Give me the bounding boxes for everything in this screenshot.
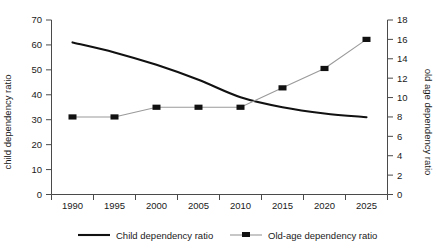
right-axis-ticks: 024681012141618 bbox=[388, 14, 408, 200]
right-tick-label: 0 bbox=[397, 189, 402, 200]
bottom-tick-label: 1990 bbox=[62, 200, 83, 211]
left-tick-label: 0 bbox=[37, 189, 42, 200]
legend-swatch-marker-old-age bbox=[242, 232, 250, 237]
right-tick-label: 18 bbox=[397, 14, 408, 25]
bottom-axis: 19901995200020052010201520202025 bbox=[52, 195, 388, 212]
bottom-tick-label: 2000 bbox=[146, 200, 167, 211]
old-age-data-marker bbox=[279, 85, 287, 90]
legend-item-old-age: Old-age dependency ratio bbox=[230, 230, 377, 241]
bottom-tick-label: 2020 bbox=[314, 200, 335, 211]
left-tick-label: 20 bbox=[31, 139, 42, 150]
left-axis-ticks: 010203040506070 bbox=[31, 14, 51, 200]
old-age-data-marker bbox=[153, 105, 161, 110]
legend-label-old-age: Old-age dependency ratio bbox=[268, 230, 377, 241]
old-age-data-marker bbox=[195, 105, 203, 110]
old-age-data-marker bbox=[321, 66, 329, 71]
left-tick-label: 10 bbox=[31, 164, 42, 175]
left-tick-label: 30 bbox=[31, 114, 42, 125]
bottom-tick-label: 1995 bbox=[104, 200, 125, 211]
old-age-data-marker bbox=[237, 105, 245, 110]
dual-axis-line-chart: 010203040506070 child dependency ratio 0… bbox=[0, 0, 436, 248]
chart-legend: Child dependency ratio Old-age dependenc… bbox=[78, 230, 377, 241]
series-child-dependency-ratio bbox=[73, 42, 367, 117]
right-tick-label: 16 bbox=[397, 34, 408, 45]
old-age-data-marker bbox=[69, 114, 77, 119]
right-axis: 024681012141618 old age dependency ratio bbox=[388, 14, 435, 200]
right-axis-title: old age dependency ratio bbox=[423, 69, 434, 176]
bottom-tick-label: 2025 bbox=[356, 200, 377, 211]
chart-canvas: 010203040506070 child dependency ratio 0… bbox=[0, 0, 436, 248]
right-tick-label: 8 bbox=[397, 111, 402, 122]
plot-area bbox=[69, 37, 371, 120]
left-axis-title: child dependency ratio bbox=[2, 74, 13, 169]
right-tick-label: 4 bbox=[397, 150, 402, 161]
left-tick-label: 50 bbox=[31, 64, 42, 75]
right-tick-label: 12 bbox=[397, 73, 408, 84]
left-axis: 010203040506070 child dependency ratio bbox=[2, 14, 52, 200]
bottom-tick-label: 2005 bbox=[188, 200, 209, 211]
bottom-tick-label: 2015 bbox=[272, 200, 293, 211]
left-tick-label: 40 bbox=[31, 89, 42, 100]
bottom-axis-ticks: 19901995200020052010201520202025 bbox=[52, 195, 388, 212]
right-tick-label: 14 bbox=[397, 53, 408, 64]
left-tick-label: 70 bbox=[31, 14, 42, 25]
legend-label-child: Child dependency ratio bbox=[116, 230, 213, 241]
right-tick-label: 6 bbox=[397, 131, 402, 142]
right-tick-label: 10 bbox=[397, 92, 408, 103]
old-age-data-marker bbox=[111, 114, 119, 119]
series-old-age-dependency-ratio bbox=[73, 39, 367, 117]
old-age-data-marker bbox=[363, 37, 371, 42]
right-tick-label: 2 bbox=[397, 170, 402, 181]
left-tick-label: 60 bbox=[31, 39, 42, 50]
legend-item-child: Child dependency ratio bbox=[78, 230, 213, 241]
bottom-tick-label: 2010 bbox=[230, 200, 251, 211]
